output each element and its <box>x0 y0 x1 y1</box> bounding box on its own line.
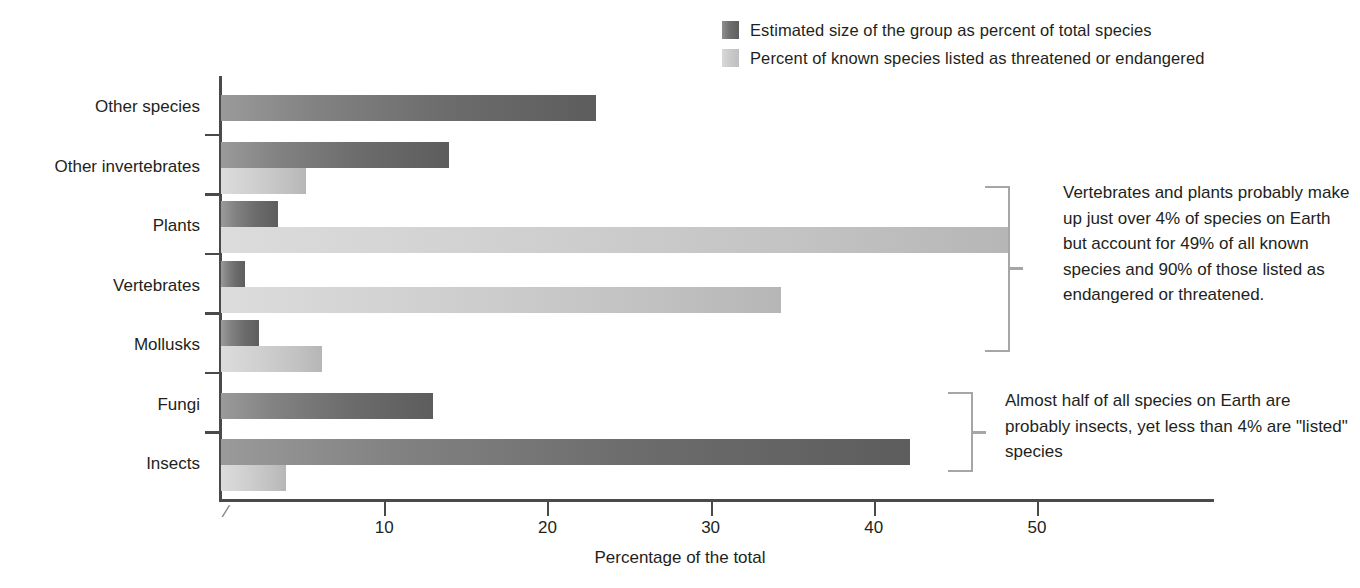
bar-percent-listed-insects <box>221 465 286 491</box>
bar-percent-listed-mollusks <box>221 346 322 372</box>
bar-percent-listed-vertebrates <box>221 287 781 313</box>
x-axis-tick-20 <box>547 501 549 516</box>
annotation-bracket-nub-1 <box>1010 267 1023 270</box>
axis-break-icon: ∕ <box>225 503 237 521</box>
annotation-text-vertebrates-plants: Vertebrates and plants probably make up … <box>1063 180 1353 308</box>
x-axis-tick-40 <box>874 501 876 516</box>
bar-estimated-size-vertebrates <box>221 261 245 287</box>
bar-estimated-size-fungi <box>221 393 433 419</box>
y-axis-label-mollusks: Mollusks <box>134 335 200 355</box>
y-axis-tick-5 <box>205 431 221 434</box>
annotation-text-insects: Almost half of all species on Earth are … <box>1005 388 1355 465</box>
y-axis-label-vertebrates: Vertebrates <box>113 276 200 296</box>
annotation-bracket-nub-2 <box>973 431 986 434</box>
x-axis-tick-label-10: 10 <box>354 518 414 538</box>
x-axis-tick-label-40: 40 <box>844 518 904 538</box>
bar-estimated-size-insects <box>221 439 910 465</box>
x-axis-title: Percentage of the total <box>0 548 1360 568</box>
bar-estimated-size-other-invertebrates <box>221 142 449 168</box>
y-axis-label-insects: Insects <box>146 454 200 474</box>
x-axis-tick-label-50: 50 <box>1007 518 1067 538</box>
y-axis-tick-0 <box>205 134 221 137</box>
y-axis-label-other-invertebrates: Other invertebrates <box>54 157 200 177</box>
x-axis-tick-10 <box>384 501 386 516</box>
x-axis-tick-label-30: 30 <box>681 518 741 538</box>
bar-estimated-size-mollusks <box>221 320 259 346</box>
y-axis-tick-3 <box>205 312 221 315</box>
x-axis-tick-50 <box>1037 501 1039 516</box>
x-axis-tick-label-20: 20 <box>517 518 577 538</box>
bar-percent-listed-plants <box>221 227 1009 253</box>
bar-estimated-size-plants <box>221 201 278 227</box>
y-axis-tick-1 <box>205 193 221 196</box>
y-axis-label-plants: Plants <box>153 216 200 236</box>
y-axis-label-other-species: Other species <box>95 97 200 117</box>
y-axis-label-fungi: Fungi <box>157 395 200 415</box>
y-axis-tick-2 <box>205 253 221 256</box>
y-axis-tick-4 <box>205 372 221 375</box>
annotation-bracket-vertebrates-plants <box>985 186 1010 352</box>
bar-estimated-size-other-species <box>221 95 596 121</box>
bar-percent-listed-other-invertebrates <box>221 168 306 194</box>
bar-chart-plot: Other speciesOther invertebratesPlantsVe… <box>0 0 1360 588</box>
x-axis-tick-30 <box>711 501 713 516</box>
x-axis-line <box>219 499 1214 502</box>
annotation-bracket-insects <box>948 392 973 472</box>
